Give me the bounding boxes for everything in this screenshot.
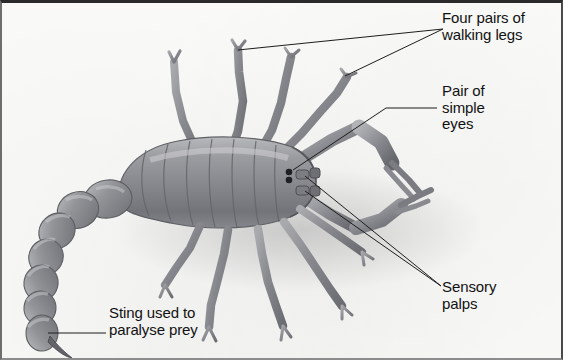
leader-walking-legs-1 [238,29,443,50]
label-sting-paralyse-prey: Sting used to paralyse prey [109,305,198,338]
label-pair-of-simple-eyes: Pair of simple eyes [442,83,485,133]
scorpion-anatomy-figure: Four pairs of walking legs Pair of simpl… [0,0,563,360]
leader-walking-legs-2 [345,29,443,76]
scorpion-body [118,137,316,228]
label-sensory-palps: Sensory palps [442,279,496,312]
label-four-pairs-walking-legs: Four pairs of walking legs [442,10,525,43]
